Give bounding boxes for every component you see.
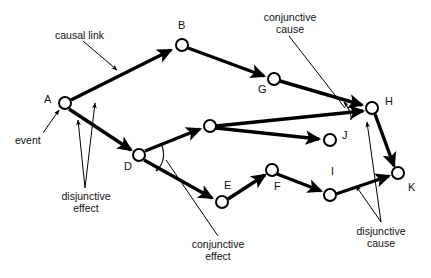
annotation-conjunctive-effect-line2: effect	[168, 250, 268, 262]
annotation-disjunctive-cause-line1: disjunctive	[333, 225, 429, 237]
node-label-J: J	[342, 130, 348, 141]
annotation-disjunctive-cause: disjunctive cause	[333, 225, 429, 249]
leader-disjunctive-cause-2	[356, 186, 381, 222]
leader-conjunctive-cause	[289, 36, 345, 108]
edge-D-E	[144, 160, 212, 198]
edge-F-I	[277, 174, 321, 191]
leader-event	[43, 110, 59, 133]
annotation-conjunctive-effect-line1: conjunctive	[168, 238, 268, 250]
leader-disjunctive-effect-2	[78, 120, 85, 188]
causal-diagram-figure: A B G H D J E F I K causal link event di…	[0, 0, 431, 278]
annotation-causal-link: causal link	[55, 29, 104, 41]
annotation-disjunctive-effect: disjunctive effect	[36, 190, 136, 214]
annotation-event-line1: event	[15, 134, 41, 146]
node-F[interactable]	[266, 164, 278, 176]
annotation-causal-link-line1: causal link	[55, 29, 104, 41]
node-E[interactable]	[216, 196, 228, 208]
leader-disjunctive-effect-1	[85, 103, 95, 188]
annotation-conjunctive-effect: conjunctive effect	[168, 238, 268, 262]
node-label-F: F	[274, 181, 281, 192]
annotation-event: event	[15, 134, 41, 146]
node-G[interactable]	[268, 73, 280, 85]
edge-A-B	[71, 50, 171, 100]
annotation-disjunctive-cause-line2: cause	[333, 237, 429, 249]
edge-B-G	[188, 48, 264, 76]
node-A[interactable]	[59, 97, 71, 109]
edge-A-D	[69, 109, 131, 150]
node-label-D: D	[124, 161, 132, 172]
node-label-K: K	[408, 182, 415, 193]
annotation-conjunctive-cause-line1: conjunctive	[240, 11, 340, 23]
node-label-B: B	[178, 20, 185, 31]
causal-edges	[69, 48, 394, 199]
node-label-E: E	[224, 180, 231, 191]
annotation-conjunctive-cause: conjunctive cause	[240, 11, 340, 35]
node-I[interactable]	[324, 189, 336, 201]
node-C[interactable]	[204, 120, 216, 132]
node-label-I: I	[331, 166, 334, 177]
node-label-G: G	[258, 84, 267, 95]
node-label-H: H	[385, 96, 393, 107]
leader-disjunctive-cause-1	[367, 122, 381, 222]
edge-E-F	[228, 175, 265, 199]
node-K[interactable]	[392, 167, 404, 179]
edge-C-J	[216, 128, 319, 139]
edge-D-C	[145, 129, 200, 151]
node-H[interactable]	[366, 102, 378, 114]
node-J[interactable]	[324, 134, 336, 146]
node-label-A: A	[44, 94, 51, 105]
node-D[interactable]	[133, 149, 145, 161]
node-B[interactable]	[176, 39, 188, 51]
annotation-disjunctive-effect-line1: disjunctive	[36, 190, 136, 202]
edge-H-K	[375, 114, 394, 166]
annotation-conjunctive-cause-line2: cause	[240, 23, 340, 35]
edge-I-K	[336, 176, 389, 194]
edge-G-H	[280, 81, 362, 105]
leader-causal-link	[83, 41, 117, 70]
annotation-disjunctive-effect-line2: effect	[36, 202, 136, 214]
edge-C-H	[216, 111, 363, 126]
